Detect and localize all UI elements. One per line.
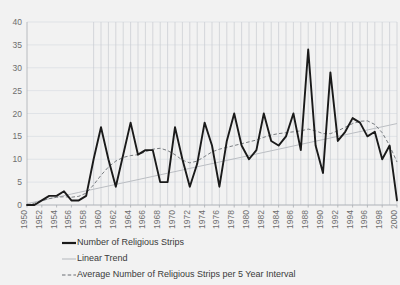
x-axis-tick-label: 1980: [241, 210, 251, 229]
chart-container: 0510152025303540 19501952195419561958196…: [0, 0, 400, 285]
x-axis-tick-label: 1958: [78, 210, 88, 229]
x-axis-tick-label: 1976: [211, 210, 221, 229]
x-axis-tick-label: 1990: [315, 210, 325, 229]
y-axis-tick-label: 10: [13, 154, 23, 164]
y-axis-tick-label: 0: [17, 200, 22, 210]
x-axis-tick-label: 1950: [19, 210, 29, 229]
x-axis-tick-label: 1982: [256, 210, 266, 229]
x-axis-tick-label: 1964: [123, 210, 133, 229]
y-axis-tick-label: 40: [13, 17, 23, 27]
y-axis-tick-label: 5: [17, 177, 22, 187]
x-axis-tick-label: 1972: [182, 210, 192, 229]
legend-label: Linear Trend: [77, 253, 128, 263]
x-axis-tick-label: 1974: [197, 210, 207, 229]
chart-legend: Number of Religious StripsLinear TrendAv…: [62, 237, 295, 279]
legend-label: Number of Religious Strips: [77, 237, 185, 247]
x-axis-tick-labels: 1950195219541956195819601962196419661968…: [19, 205, 399, 229]
x-axis-tick-label: 1986: [285, 210, 295, 229]
x-axis-tick-label: 1978: [226, 210, 236, 229]
x-axis-tick-label: 1956: [63, 210, 73, 229]
x-axis-tick-label: 1992: [330, 210, 340, 229]
x-axis-tick-label: 1968: [152, 210, 162, 229]
x-axis-tick-label: 1994: [345, 210, 355, 229]
y-axis-tick-label: 15: [13, 131, 23, 141]
x-axis-tick-label: 1962: [108, 210, 118, 229]
y-axis-tick-label: 25: [13, 86, 23, 96]
y-axis-tick-label: 35: [13, 40, 23, 50]
y-axis-tick-label: 20: [13, 109, 23, 119]
x-axis-tick-label: 1996: [359, 210, 369, 229]
x-axis-tick-label: 1970: [167, 210, 177, 229]
x-axis-tick-label: 1954: [49, 210, 59, 229]
x-axis-tick-label: 1988: [300, 210, 310, 229]
x-axis-tick-label: 2000: [389, 210, 399, 229]
x-axis-tick-label: 1998: [374, 210, 384, 229]
chart-plot-svg: 0510152025303540 19501952195419561958196…: [0, 0, 400, 285]
x-axis-tick-label: 1984: [271, 210, 281, 229]
legend-label: Average Number of Religious Strips per 5…: [77, 269, 295, 279]
y-axis-tick-labels: 0510152025303540: [13, 17, 23, 210]
y-axis-tick-label: 30: [13, 63, 23, 73]
x-axis-tick-label: 1952: [34, 210, 44, 229]
x-axis-tick-label: 1960: [93, 210, 103, 229]
x-axis-tick-label: 1966: [137, 210, 147, 229]
